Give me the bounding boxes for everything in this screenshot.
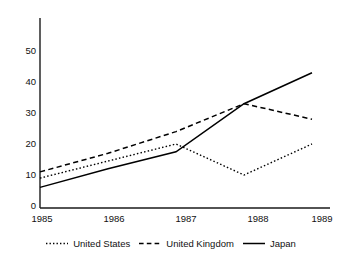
x-tick-1985: 1985 xyxy=(22,213,62,224)
legend-item-japan[interactable]: Japan xyxy=(243,238,296,249)
legend-item-united-states[interactable]: United States xyxy=(46,238,130,249)
legend-swatch-dotted-icon xyxy=(46,239,68,248)
x-tick-1987: 1987 xyxy=(166,213,206,224)
x-tick-1988: 1988 xyxy=(238,213,278,224)
x-axis-ticks: 1985 1986 1987 1988 1989 xyxy=(0,213,342,227)
series-line-united-states xyxy=(40,144,312,178)
x-tick-1989: 1989 xyxy=(302,213,342,224)
legend-item-united-kingdom[interactable]: United Kingdom xyxy=(139,238,234,249)
y-tick-10: 10 xyxy=(10,170,36,180)
series-line-japan xyxy=(40,73,312,188)
line-chart: 50 40 30 20 10 0 1985 1986 1987 1988 198… xyxy=(0,0,342,264)
series-line-united-kingdom xyxy=(40,104,312,172)
y-tick-20: 20 xyxy=(10,139,36,149)
y-tick-30: 30 xyxy=(10,108,36,118)
chart-legend: United States United Kingdom Japan xyxy=(0,234,342,252)
series-layer xyxy=(40,73,312,188)
legend-label-japan: Japan xyxy=(270,238,296,249)
y-tick-50: 50 xyxy=(10,46,36,56)
y-tick-0: 0 xyxy=(10,201,36,211)
x-tick-1986: 1986 xyxy=(94,213,134,224)
legend-swatch-solid-icon xyxy=(243,239,265,248)
y-tick-40: 40 xyxy=(10,77,36,87)
legend-label-united-states: United States xyxy=(73,238,130,249)
legend-swatch-dashed-icon xyxy=(139,239,161,248)
legend-label-united-kingdom: United Kingdom xyxy=(166,238,234,249)
